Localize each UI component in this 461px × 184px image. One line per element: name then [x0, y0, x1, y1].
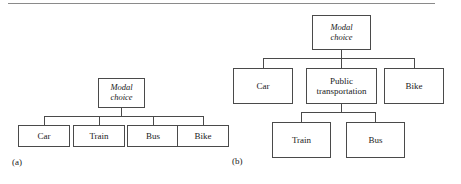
panel-a-node-train[interactable]: Train — [73, 125, 125, 147]
panel-b-node-bike-label: Bike — [404, 81, 425, 91]
panel-a-node-bus-label: Bus — [144, 131, 162, 141]
panel-a-node-car[interactable]: Car — [18, 125, 70, 147]
panel-a-root-modal-choice[interactable]: Modal choice — [98, 78, 145, 108]
panel-b-root-modal-choice[interactable]: Modal choice — [312, 15, 371, 50]
panel-a-node-bike-label: Bike — [193, 131, 214, 141]
panel-b-node-public-transportation[interactable]: Public transportation — [306, 68, 377, 104]
panel-b-node-bike[interactable]: Bike — [384, 68, 444, 104]
panel-b-node-train[interactable]: Train — [272, 122, 331, 158]
top-horizontal-rule — [8, 3, 435, 4]
panel-b-level2-bus — [301, 112, 376, 113]
panel-a-node-bus[interactable]: Bus — [127, 125, 179, 147]
panel-a-horizontal-bus — [44, 116, 204, 117]
panel-a-node-train-label: Train — [87, 131, 110, 141]
figure-root: Modal choice Car Train Bus Bike (a) Moda… — [0, 0, 461, 184]
panel-b-root-label: Modal choice — [328, 23, 354, 42]
panel-a-node-car-label: Car — [36, 131, 53, 141]
panel-b-node-public-transportation-label: Public transportation — [315, 76, 369, 96]
panel-a-caption: (a) — [12, 157, 22, 167]
panel-b-caption: (b) — [232, 156, 243, 166]
panel-b-level1-bus — [263, 58, 415, 59]
panel-a-root-label: Modal choice — [108, 83, 134, 102]
panel-b-node-train-label: Train — [290, 135, 313, 145]
panel-a-node-bike[interactable]: Bike — [177, 125, 229, 147]
panel-b-node-car-label: Car — [255, 81, 272, 91]
panel-b-node-car[interactable]: Car — [233, 68, 293, 104]
panel-b-node-bus-label: Bus — [366, 135, 384, 145]
panel-b-node-bus[interactable]: Bus — [346, 122, 405, 158]
